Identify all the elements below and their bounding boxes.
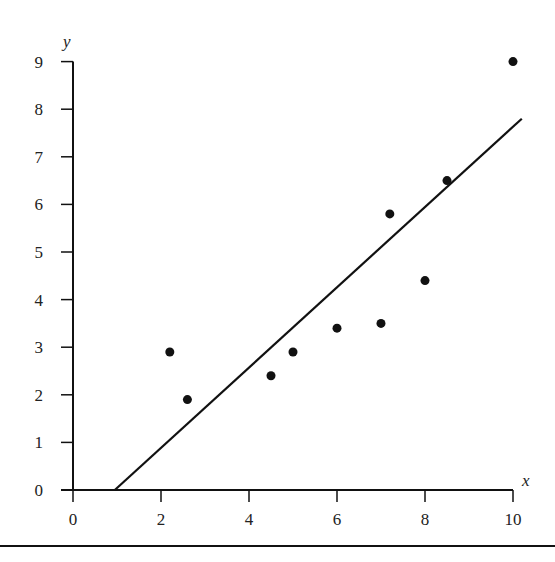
data-point xyxy=(289,347,298,356)
data-point xyxy=(377,319,386,328)
y-tick-label: 3 xyxy=(35,338,44,357)
y-tick-label: 7 xyxy=(35,148,44,167)
y-tick-label: 0 xyxy=(35,481,44,500)
data-point xyxy=(443,176,452,185)
y-axis-label: y xyxy=(61,32,71,51)
x-axis-label: x xyxy=(521,471,530,490)
x-axis: 0246810 xyxy=(61,490,522,529)
x-tick-label: 8 xyxy=(421,510,430,529)
data-point xyxy=(333,324,342,333)
data-point xyxy=(267,371,276,380)
y-tick-label: 1 xyxy=(35,433,44,452)
x-tick-label: 10 xyxy=(505,510,522,529)
data-points xyxy=(165,57,517,404)
x-tick-label: 2 xyxy=(157,510,166,529)
y-tick-label: 8 xyxy=(35,100,44,119)
y-tick-label: 4 xyxy=(35,291,44,310)
fitted-line xyxy=(115,119,522,490)
y-tick-label: 5 xyxy=(35,243,44,262)
y-axis: 0123456789 xyxy=(35,53,74,500)
x-tick-label: 0 xyxy=(69,510,78,529)
y-tick-label: 6 xyxy=(35,195,44,214)
data-point xyxy=(183,395,192,404)
data-point xyxy=(509,57,518,66)
data-point xyxy=(165,347,174,356)
x-tick-label: 4 xyxy=(245,510,254,529)
y-tick-label: 2 xyxy=(35,386,44,405)
y-tick-label: 9 xyxy=(35,53,44,72)
regression-line xyxy=(115,119,522,490)
scatter-plot: 0123456789 0246810 y x xyxy=(0,0,555,562)
data-point xyxy=(421,276,430,285)
x-tick-label: 6 xyxy=(333,510,342,529)
data-point xyxy=(385,209,394,218)
